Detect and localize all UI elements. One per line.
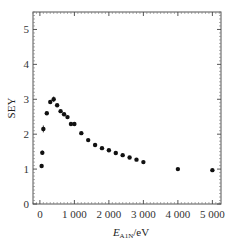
sey-scatter-chart: 01 0002 0003 0004 0005 000 012345 SEY EA…: [0, 0, 235, 244]
x-tick-label: 4 000: [166, 208, 191, 220]
data-point: [55, 103, 59, 107]
data-point: [93, 143, 97, 147]
x-tick-label: 5 000: [200, 208, 225, 220]
x-tick-label: 3 000: [131, 208, 156, 220]
x-tick-label: 1 000: [62, 208, 87, 220]
y-tick-labels: 012345: [24, 23, 30, 210]
data-point: [127, 155, 131, 159]
y-tick-label: 1: [24, 163, 30, 175]
x-tick-label: 0: [37, 208, 43, 220]
data-point: [114, 151, 118, 155]
minor-ticks: [33, 12, 221, 204]
data-point: [107, 148, 111, 152]
x-axis-label-sub: A1N: [120, 232, 134, 240]
y-axis-label: SEY: [5, 98, 17, 119]
data-point: [72, 122, 76, 126]
y-tick-label: 4: [24, 58, 30, 70]
x-tick-labels: 01 0002 0003 0004 0005 000: [37, 208, 225, 220]
data-point: [141, 160, 145, 164]
y-tick-label: 5: [24, 23, 30, 35]
data-point: [65, 115, 69, 119]
data-point: [134, 157, 138, 161]
data-point: [176, 167, 180, 171]
x-axis-label-unit: /eV: [133, 226, 149, 238]
major-ticks: [33, 12, 221, 204]
x-axis-label: EA1N/eV: [112, 226, 149, 240]
data-point: [41, 127, 45, 131]
data-point: [100, 146, 104, 150]
data-point: [48, 100, 52, 104]
data-point: [40, 150, 44, 154]
y-tick-label: 2: [24, 128, 30, 140]
data-point: [79, 131, 83, 135]
data-point: [39, 164, 43, 168]
plot-frame: [33, 12, 221, 204]
data-point: [45, 111, 49, 115]
data-point: [62, 112, 66, 116]
y-tick-label: 3: [24, 93, 30, 105]
data-point: [58, 109, 62, 113]
x-tick-label: 2 000: [97, 208, 122, 220]
data-point: [120, 153, 124, 157]
y-tick-label: 0: [24, 198, 30, 210]
data-point: [51, 97, 55, 101]
data-point: [210, 168, 214, 172]
data-points: [39, 97, 214, 172]
data-point: [86, 138, 90, 142]
